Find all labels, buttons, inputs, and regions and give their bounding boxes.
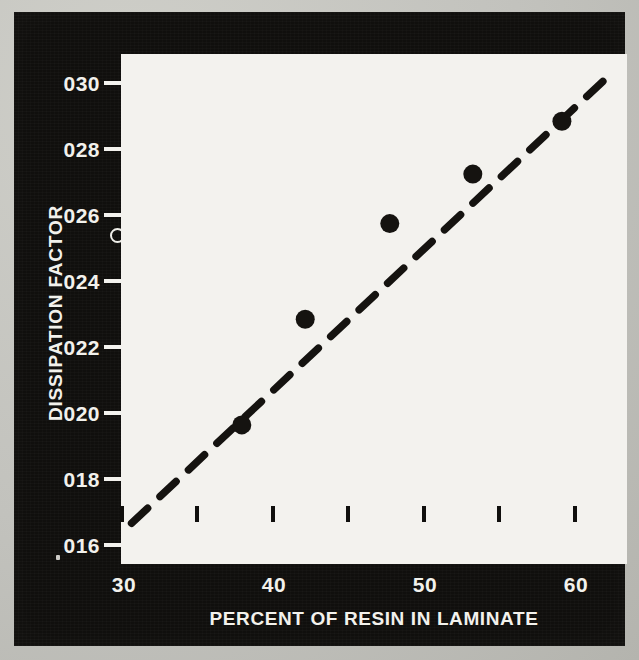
y-axis-title: DISSIPATION FACTOR [45,183,67,443]
x-tick-label-40: 40 [244,573,304,597]
y-tick-mark-026 [104,213,121,217]
data-point [552,112,571,131]
x-tick-mark-35 [195,506,199,522]
plot-canvas [121,54,627,564]
y-tick-label-028: 028 [38,138,100,162]
plot-area [121,54,627,564]
y-tick-label-018: 018 [38,468,100,492]
page-background: 030 028 026 024 022 020 018 016 [0,0,639,660]
x-tick-label-60: 60 [546,573,606,597]
x-axis-title: PERCENT OF RESIN IN LAMINATE [121,608,627,630]
data-point [463,165,482,184]
x-tick-mark-60 [573,506,577,522]
x-tick-mark-45 [346,506,350,522]
dust-speck [56,555,60,560]
y-tick-label-016: 016 [38,534,100,558]
x-tick-label-50: 50 [395,573,455,597]
x-tick-mark-30 [120,506,124,522]
figure-panel: 030 028 026 024 022 020 018 016 [14,12,625,646]
data-point [380,214,399,233]
y-tick-mark-022 [104,345,121,349]
y-tick-mark-024 [104,279,121,283]
x-tick-label-30: 30 [94,573,154,597]
trend-line-group [132,74,611,523]
y-tick-mark-018 [104,477,121,481]
y-tick-mark-028 [104,147,121,151]
x-tick-mark-40 [271,506,275,522]
data-point [296,310,315,329]
x-tick-mark-55 [497,506,501,522]
y-tick-mark-016 [104,543,121,547]
y-tick-mark-020 [104,411,121,415]
x-tick-mark-50 [422,506,426,522]
y-tick-mark-030 [104,81,121,85]
y-tick-label-030: 030 [38,72,100,96]
trend-line [132,74,611,523]
data-point [232,415,251,434]
